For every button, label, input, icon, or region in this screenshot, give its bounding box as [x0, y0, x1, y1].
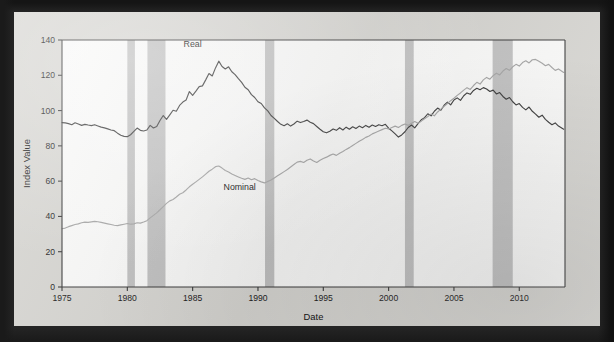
y-axis-ticks: 020406080100120140	[41, 35, 62, 292]
x-tick-label: 2000	[379, 293, 398, 303]
recession-2001	[405, 40, 414, 287]
y-tick-label: 0	[50, 282, 55, 292]
x-tick-label: 1995	[314, 293, 333, 303]
x-tick-label: 2005	[444, 293, 463, 303]
x-tick-label: 1990	[248, 293, 267, 303]
recession-1980	[127, 40, 135, 287]
plot-wrapper: 19751980198519901995200020052010 0204060…	[14, 12, 600, 326]
y-tick-label: 80	[45, 141, 55, 151]
figure-panel: 19751980198519901995200020052010 0204060…	[14, 12, 600, 326]
series-label-nominal: Nominal	[224, 182, 256, 192]
recession-2008-09	[493, 40, 513, 287]
y-tick-label: 20	[45, 247, 55, 257]
y-tick-label: 40	[45, 211, 55, 221]
y-tick-label: 140	[41, 35, 56, 45]
series-label-real: Real	[184, 39, 202, 49]
y-axis-title: Index Value	[21, 139, 32, 188]
plot-background	[62, 40, 565, 287]
x-tick-label: 1975	[52, 293, 71, 303]
recession-1981-82	[147, 40, 165, 287]
x-axis-ticks: 19751980198519901995200020052010	[52, 287, 529, 303]
y-tick-label: 100	[41, 106, 56, 116]
x-tick-label: 1985	[183, 293, 202, 303]
y-tick-label: 60	[45, 176, 55, 186]
y-tick-label: 120	[41, 70, 56, 80]
x-axis-title: Date	[304, 311, 324, 322]
x-tick-label: 2010	[510, 293, 529, 303]
page-root: 19751980198519901995200020052010 0204060…	[0, 0, 614, 342]
line-chart: 19751980198519901995200020052010 0204060…	[14, 12, 600, 326]
recession-1990-91	[265, 40, 274, 287]
x-tick-label: 1980	[118, 293, 137, 303]
